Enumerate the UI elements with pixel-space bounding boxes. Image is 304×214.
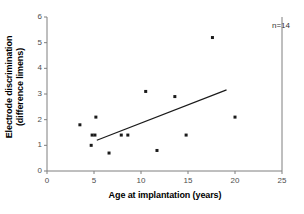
regression-line [97,90,227,140]
data-point-7 [126,134,129,137]
data-point-4 [94,116,97,119]
data-point-6 [120,134,123,137]
data-point-11 [185,134,188,137]
axis-ticks [44,17,282,174]
data-point-13 [234,116,237,119]
axes-frame [47,17,282,171]
data-point-9 [155,149,158,152]
data-point-5 [108,152,111,155]
plot-canvas [0,0,304,214]
data-point-2 [91,134,94,137]
trend-line [97,90,227,140]
data-point-10 [173,95,176,98]
data-point-12 [211,36,214,39]
data-point-8 [144,90,147,93]
data-point-3 [93,134,96,137]
scatter-plot-figure: Electrode discrimination (difference lim… [0,0,304,214]
data-point-1 [90,144,93,147]
data-point-0 [78,123,81,126]
